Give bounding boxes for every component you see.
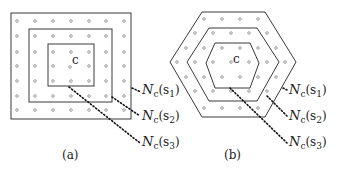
center-label-b: c (233, 52, 240, 66)
grid-dot (70, 95, 73, 98)
grid-dot (123, 35, 126, 38)
center-label-a: c (72, 53, 79, 67)
grid-dot (88, 51, 91, 54)
grid-dot (185, 76, 188, 79)
grid-dot (275, 76, 278, 79)
grid-dot (123, 51, 126, 54)
grid-dot (257, 76, 260, 79)
grid-dot (257, 107, 260, 110)
label-a-nc-s2: Nc(s2) (142, 108, 180, 125)
grid-dot (16, 80, 19, 83)
label-b-nc-s2: Nc(s2) (289, 108, 327, 125)
grid-dot (123, 95, 126, 98)
grid-dot (239, 47, 242, 50)
grid-dot (185, 47, 188, 50)
grid-dot (34, 51, 37, 54)
grid-dot (16, 109, 19, 112)
panel-b-leaders (230, 88, 287, 143)
grid-dot (194, 90, 197, 93)
panel-b-grid-dots (176, 18, 287, 110)
grid-dot (248, 61, 251, 64)
grid-dot (105, 35, 108, 38)
grid-dot (16, 20, 19, 23)
grid-dot (16, 95, 19, 98)
grid-dot (257, 18, 260, 21)
grid-dot (34, 109, 37, 112)
grid-dot (52, 35, 55, 38)
grid-dot (70, 80, 73, 83)
grid-dot (70, 35, 73, 38)
grid-dot (248, 32, 251, 35)
grid-dot (52, 65, 55, 68)
grid-dot (52, 51, 55, 54)
grid-dot (105, 20, 108, 23)
caption-b: (b) (224, 148, 241, 162)
grid-dot (266, 32, 269, 35)
grid-dot (52, 95, 55, 98)
grid-dot (203, 107, 206, 110)
grid-dot (266, 61, 269, 64)
grid-dot (194, 32, 197, 35)
grid-dot (123, 80, 126, 83)
leader-b-s1 (283, 88, 287, 90)
grid-dot (16, 65, 19, 68)
grid-dot (105, 51, 108, 54)
grid-dot (239, 107, 242, 110)
grid-dot (34, 65, 37, 68)
grid-dot (52, 109, 55, 112)
grid-dot (52, 20, 55, 23)
leader-b-s2 (267, 96, 287, 116)
grid-dot (16, 51, 19, 54)
grid-dot (105, 65, 108, 68)
grid-dot (52, 80, 55, 83)
grid-dot (284, 61, 287, 64)
label-a-nc-s3: Nc(s3) (142, 134, 180, 151)
grid-dot (105, 95, 108, 98)
grid-dot (88, 35, 91, 38)
grid-dot (105, 80, 108, 83)
grid-dot (212, 32, 215, 35)
leader-a-s1 (132, 88, 141, 92)
grid-dot (266, 90, 269, 93)
leader-b-s3 (230, 88, 287, 143)
grid-dot (239, 18, 242, 21)
grid-dot (176, 61, 179, 64)
grid-dot (221, 107, 224, 110)
grid-dot (203, 47, 206, 50)
grid-dot (70, 109, 73, 112)
label-b-nc-s1: Nc(s1) (289, 82, 327, 99)
grid-dot (123, 65, 126, 68)
grid-dot (239, 76, 242, 79)
grid-dot (203, 18, 206, 21)
grid-dot (34, 95, 37, 98)
grid-dot (16, 35, 19, 38)
label-a-nc-s1: Nc(s1) (142, 82, 180, 99)
grid-dot (34, 20, 37, 23)
grid-dot (212, 61, 215, 64)
leader-a-s2 (112, 97, 140, 116)
grid-dot (69, 66, 72, 69)
grid-dot (70, 20, 73, 23)
grid-dot (230, 61, 233, 64)
grid-dot (230, 32, 233, 35)
label-b-nc-s3: Nc(s3) (289, 134, 327, 151)
grid-dot (88, 109, 91, 112)
grid-dot (221, 76, 224, 79)
grid-dot (212, 90, 215, 93)
grid-dot (34, 35, 37, 38)
grid-dot (123, 109, 126, 112)
grid-dot (88, 95, 91, 98)
grid-dot (123, 20, 126, 23)
grid-dot (248, 90, 251, 93)
panel-a-grid-dots (16, 20, 126, 112)
grid-dot (88, 20, 91, 23)
grid-dot (88, 65, 91, 68)
grid-dot (34, 80, 37, 83)
grid-dot (88, 80, 91, 83)
grid-dot (221, 18, 224, 21)
grid-dot (221, 47, 224, 50)
grid-dot (257, 47, 260, 50)
grid-dot (105, 109, 108, 112)
grid-dot (194, 61, 197, 64)
grid-dot (275, 47, 278, 50)
